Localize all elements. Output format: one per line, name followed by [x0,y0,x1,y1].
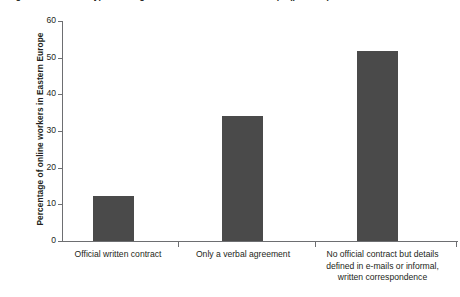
y-tick-label-10: 10 [46,198,56,208]
plot-area: 0 10 20 30 40 50 60 [62,21,458,241]
bar-only-verbal-agreement [222,116,263,241]
figure-caption-cropped: Figure 9.8 Contract types among online w… [0,0,460,11]
x-axis-label-1: Only a verbal agreement [182,249,304,261]
y-tick-label-50: 50 [46,52,56,62]
x-axis-label-2-line-1: No official contract but details [326,249,438,259]
bar-no-official-contract [357,51,398,241]
bar-chart-figure: Figure 9.8 Contract types among online w… [0,0,460,297]
y-axis-line [62,21,63,242]
x-tick-boundary-2 [315,242,316,247]
x-axis-label-0: Official written contract [54,249,182,261]
y-tick-label-60: 60 [46,15,56,25]
y-tick-label-0: 0 [51,235,56,245]
x-axis-label-2-line-3: written correspondence [338,272,427,282]
y-axis-title: Percentage of online workers in Eastern … [35,16,45,242]
y-tick-label-20: 20 [46,162,56,172]
bar-official-written-contract [93,196,134,241]
figure-caption-text: Figure 9.8 Contract types among online w… [8,0,452,1]
x-tick-boundary-3 [456,242,457,247]
x-tick-boundary-1 [178,242,179,247]
x-axis-line [62,241,458,242]
y-tick-label-30: 30 [46,125,56,135]
y-tick-label-40: 40 [46,88,56,98]
x-axis-label-2: No official contract but details defined… [307,249,458,284]
x-axis-label-2-line-2: defined in e-mails or informal, [326,261,439,271]
